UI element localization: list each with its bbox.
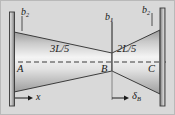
label-b2-left: b2 (21, 7, 29, 17)
label-length-left: 3L/5 (50, 44, 69, 55)
deflection-arrow-head (124, 96, 129, 101)
beam-diagram-figure: b2 b1 b2 3L/5 2L/5 A B C x δB (0, 0, 175, 115)
label-b1: b1 (105, 12, 113, 22)
x-axis-arrow-head (28, 96, 33, 101)
label-length-right: 2L/5 (117, 44, 136, 55)
label-b2-right: b2 (142, 5, 150, 15)
right-fixed-support (160, 8, 165, 106)
left-fixed-support (10, 12, 15, 106)
label-deflection-delta-b: δB (132, 91, 141, 102)
label-point-a: A (17, 64, 23, 75)
label-point-c: C (148, 64, 155, 75)
label-axis-x: x (36, 92, 40, 102)
label-point-b: B (101, 64, 107, 75)
beam-segment-right (112, 30, 160, 94)
